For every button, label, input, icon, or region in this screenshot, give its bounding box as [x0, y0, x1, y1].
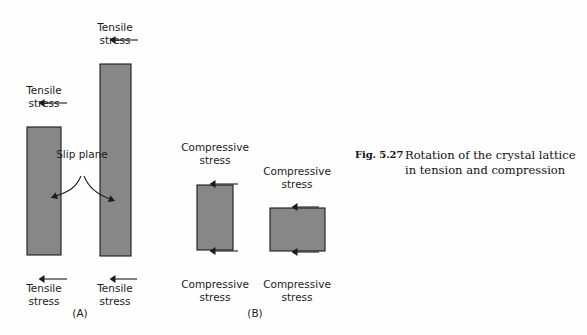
label-line-1: Tensile	[26, 84, 62, 96]
tall-bar-right-bottom-label: Tensile stress	[97, 282, 133, 307]
label-line-1: Compressive	[181, 278, 249, 290]
label-line-2: stress	[263, 291, 331, 304]
label-line-2: stress	[263, 178, 331, 191]
label-line-2: plane	[79, 148, 108, 160]
short-block-left-top-label: Compressive stress	[181, 141, 249, 166]
label-line-1: Compressive	[263, 278, 331, 290]
figure-number: Fig. 5.27	[355, 149, 403, 160]
label-line-2: stress	[181, 291, 249, 304]
label-line-2: stress	[97, 295, 133, 308]
figure-caption-text: Rotation of the crystal lattice in tensi…	[405, 148, 583, 178]
label-line-1: Slip	[56, 148, 75, 160]
figure-container: Tensile stress Tensile stress Tensile st…	[0, 0, 587, 335]
panel-letter-a: (A)	[72, 307, 87, 319]
label-line-2: stress	[26, 97, 62, 110]
label-line-1: Compressive	[181, 141, 249, 153]
short-block-left-bottom-label: Compressive stress	[181, 278, 249, 303]
slip-plane-label: Slip plane	[56, 148, 108, 161]
label-line-1: Compressive	[263, 165, 331, 177]
short-block-right-top-label: Compressive stress	[263, 165, 331, 190]
label-line-2: stress	[181, 154, 249, 167]
short-block-right-bottom-label: Compressive stress	[263, 278, 331, 303]
short-block-left	[197, 185, 233, 250]
label-line-1: Tensile	[97, 282, 133, 294]
label-line-1: Tensile	[26, 282, 62, 294]
panel-letter-b: (B)	[247, 307, 262, 319]
label-line-1: Tensile	[97, 21, 133, 33]
tall-bar-left	[27, 127, 61, 255]
short-block-right	[270, 208, 325, 251]
label-line-2: stress	[26, 295, 62, 308]
label-line-2: stress	[97, 34, 133, 47]
tall-bar-right-top-label: Tensile stress	[97, 21, 133, 46]
tall-bar-left-bottom-label: Tensile stress	[26, 282, 62, 307]
tall-bar-left-top-label: Tensile stress	[26, 84, 62, 109]
